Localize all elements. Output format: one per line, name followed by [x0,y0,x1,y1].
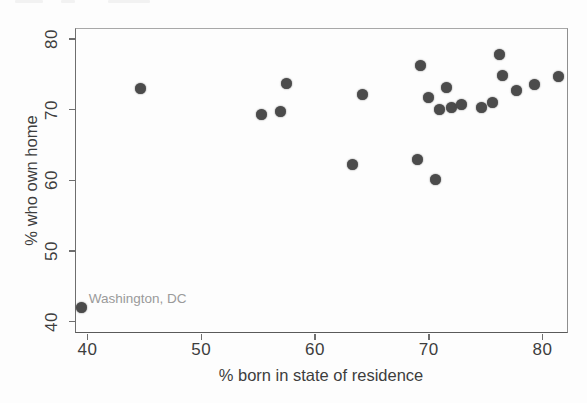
data-point [553,71,564,82]
x-axis-title: % born in state of residence [171,366,471,385]
y-tick-mark [69,180,75,182]
y-tick-label: 40 [42,304,62,340]
x-tick-label: 40 [68,340,108,360]
scatterplot-figure: 4050607080 4050607080 % born in state of… [0,0,587,403]
data-point [347,159,358,170]
x-tick-mark [542,334,544,340]
y-tick-label: 60 [42,162,62,198]
x-tick-mark [314,334,316,340]
data-point [476,102,487,113]
x-tick-label: 70 [409,340,449,360]
x-tick-label: 50 [181,340,221,360]
data-point [494,49,505,60]
data-point [511,85,522,96]
x-tick-label: 60 [295,340,335,360]
data-point [275,106,286,117]
y-tick-label: 50 [42,233,62,269]
y-tick-label: 80 [42,21,62,57]
scan-smudge [15,0,43,3]
data-point [412,154,423,165]
y-tick-label: 70 [42,92,62,128]
point-annotation-washington-dc: Washington, DC [89,291,187,307]
scan-smudge [108,0,150,3]
x-tick-label: 80 [523,340,563,360]
y-tick-mark [69,109,75,111]
plot-area [75,28,568,333]
y-axis-title: % who own home [22,111,41,251]
x-tick-mark [87,334,89,340]
data-point [497,70,508,81]
x-tick-mark [428,334,430,340]
y-tick-mark [69,250,75,252]
data-point [487,97,498,108]
y-tick-mark [69,321,75,323]
data-point [434,104,445,115]
y-tick-mark [69,38,75,40]
data-point [281,78,292,89]
x-tick-mark [201,334,203,340]
scan-smudge [61,0,75,3]
